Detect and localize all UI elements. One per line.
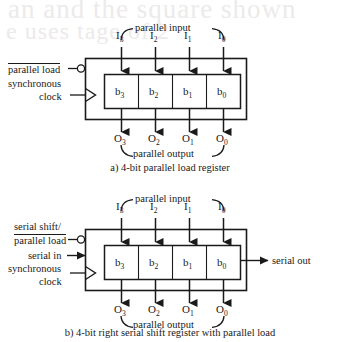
clock-triangle-b [86, 267, 96, 280]
parallel-input-label-a: parallel input [135, 22, 191, 33]
input-label-b-3: I3 [116, 200, 123, 215]
brace-right-b-bottom [212, 316, 224, 327]
brace-left-b-bottom [121, 316, 133, 327]
output-label-b-3: O3 [114, 303, 126, 318]
control-label-b-text: parallel load [14, 234, 66, 246]
figure-b-caption: b) 4-bit right serial shift register wit… [0, 327, 340, 338]
register-cell-b-3: b3 [115, 256, 124, 271]
control-label-b-line2: parallel load [14, 234, 66, 246]
clock-label-b-line2: clock [39, 276, 62, 287]
serial-out-label: serial out [272, 255, 311, 266]
register-cell-b-1: b1 [183, 256, 192, 271]
output-label-a-2: O2 [148, 132, 160, 147]
output-label-b-2: O2 [148, 303, 160, 318]
serial-in-label: serial in [28, 250, 62, 261]
control-label-a-text: parallel load [8, 63, 60, 75]
output-label-a-0: O0 [216, 132, 228, 147]
figure-b-graphics [67, 200, 268, 328]
input-label-a-3: I3 [116, 29, 123, 44]
output-label-a-1: O1 [182, 132, 194, 147]
figure-a-caption: a) 4-bit parallel load register [0, 162, 340, 173]
inversion-bubble-b [77, 236, 84, 243]
input-label-b-1: I1 [184, 200, 191, 215]
clock-triangle-a [86, 89, 96, 102]
input-label-a-1: I1 [184, 29, 191, 44]
brace-left-a-bottom [121, 145, 133, 156]
input-label-a-2: I2 [150, 29, 157, 44]
control-label-a: parallel load [8, 63, 60, 75]
parallel-output-label-a: parallel output [133, 148, 194, 159]
input-label-b-2: I2 [150, 200, 157, 215]
output-label-b-0: O0 [216, 303, 228, 318]
register-cell-a-2: b2 [149, 85, 158, 100]
register-cell-b-2: b2 [149, 256, 158, 271]
brace-right-a-bottom [212, 145, 224, 156]
clock-label-b-line1: synchronous [8, 263, 61, 274]
register-cell-b-0: b0 [217, 256, 226, 271]
clock-label-a-line2: clock [39, 91, 62, 102]
clock-label-a-line1: synchronous [8, 78, 61, 89]
input-label-a-0: I0 [218, 29, 225, 44]
register-cell-a-0: b0 [217, 85, 226, 100]
register-cell-a-1: b1 [183, 85, 192, 100]
register-cell-a-3: b3 [115, 85, 124, 100]
inversion-bubble-a [77, 65, 84, 72]
control-label-b-line1: serial shift/ [14, 221, 61, 232]
output-label-b-1: O1 [182, 303, 194, 318]
figure-page: an and the square shown e uses tage of 2 [0, 0, 340, 342]
input-label-b-0: I0 [218, 200, 225, 215]
parallel-input-label-b: parallel input [135, 193, 191, 204]
output-label-a-3: O3 [114, 132, 126, 147]
